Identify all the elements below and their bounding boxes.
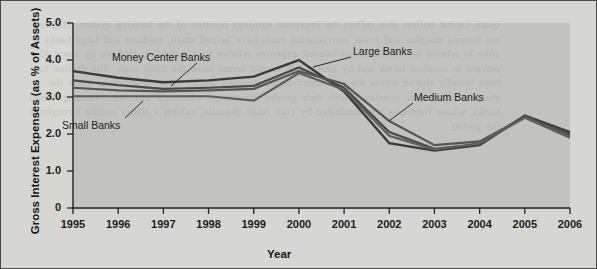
chart-series-group	[73, 60, 570, 151]
x-axis-tick-label: 2006	[547, 218, 593, 230]
annotation-label: Large Banks	[353, 45, 412, 57]
annotation-leader	[389, 103, 413, 121]
annotation-label: Money Center Banks	[112, 51, 210, 63]
annotation-leader	[313, 57, 351, 67]
x-axis-tick-label: 2005	[502, 218, 548, 230]
x-axis-tick-label: 2001	[321, 218, 367, 230]
x-axis-tick-label: 2000	[276, 218, 322, 230]
series-line-money-center-banks	[73, 60, 570, 151]
annotation-label: Medium Banks	[414, 91, 483, 103]
y-axis-title: Gross Interest Expenses (as % of Assets)	[29, 6, 41, 236]
x-axis-tick-label: 1997	[140, 218, 186, 230]
x-axis-tick-label: 2004	[457, 218, 503, 230]
x-axis-tick-label: 1995	[50, 218, 96, 230]
series-line-small-banks	[73, 73, 570, 150]
x-axis-tick-label: 1999	[231, 218, 277, 230]
x-axis-title: Year	[267, 248, 291, 260]
x-axis-tick-label: 1998	[186, 218, 232, 230]
x-axis-tick-label: 2003	[411, 218, 457, 230]
annotation-label: Small Banks	[62, 119, 120, 131]
annotation-leader	[125, 101, 143, 118]
x-axis-tick-label: 1996	[95, 218, 141, 230]
chart-figure: quate capital buffers also reflect the i…	[0, 0, 597, 269]
x-axis-tick-label: 2002	[366, 218, 412, 230]
